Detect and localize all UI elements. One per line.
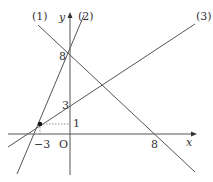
line-3 <box>8 24 195 147</box>
line-2-label: (2) <box>78 10 94 23</box>
y-tick-3: 3 <box>62 99 69 112</box>
origin-label: O <box>59 138 68 151</box>
x-tick-8: 8 <box>151 138 158 151</box>
line-3-label: (3) <box>196 10 212 23</box>
coordinate-diagram: (1) (2) (3) y x O 8 3 1 −3 8 <box>0 0 213 182</box>
y-axis-arrow-icon <box>68 12 73 18</box>
y-tick-8: 8 <box>59 50 66 63</box>
y-tick-1: 1 <box>73 117 80 130</box>
y-axis-label: y <box>58 11 66 24</box>
line-2 <box>17 15 84 174</box>
intersection-point <box>38 122 42 126</box>
x-tick-neg3: −3 <box>34 138 50 151</box>
line-1-label: (1) <box>32 10 48 23</box>
x-axis-label: x <box>186 136 193 149</box>
